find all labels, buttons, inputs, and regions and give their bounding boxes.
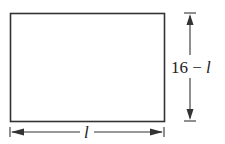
- width-label: l: [84, 123, 89, 142]
- height-label: 16 − l: [171, 58, 211, 77]
- rectangle: [11, 14, 165, 122]
- rectangle-diagram: 16 − l l: [0, 0, 225, 144]
